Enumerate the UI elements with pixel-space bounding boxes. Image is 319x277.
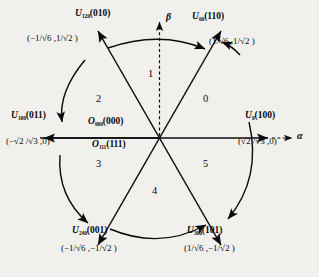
rotation-arrows bbox=[60, 39, 253, 238]
vector-subscript-u120: 120 bbox=[82, 13, 90, 19]
sector-label-2: 2 bbox=[96, 93, 101, 104]
vector-symbol-u180: U bbox=[11, 110, 18, 120]
vector-coords-u120: (−1/√6 ,1/√2 ) bbox=[27, 34, 78, 43]
vector-subscript-u300: 300 bbox=[194, 230, 202, 236]
vector-coords-u180: (−√2 /√3 ,0) bbox=[6, 137, 50, 146]
vector-coords-u240: (−1/√6 ,−1/√2 ) bbox=[61, 244, 117, 253]
vector-switching-u120: (010) bbox=[90, 8, 111, 18]
vector-switching-u60: (110) bbox=[204, 11, 224, 21]
vector-subscript-u180: 180 bbox=[18, 115, 26, 121]
vector-symbol-o000: O bbox=[88, 116, 95, 126]
sector-label-4: 4 bbox=[152, 185, 157, 196]
beta-axis-label: β bbox=[166, 12, 171, 23]
vector-label-u60: U60(110) bbox=[192, 12, 224, 22]
sector-label-0: 0 bbox=[203, 93, 208, 104]
vector-subscript-u240: 240 bbox=[79, 230, 87, 236]
vector-symbol-u240: U bbox=[72, 225, 79, 235]
alpha-axis-label: α bbox=[297, 131, 303, 142]
vector-coords-u0: (√2 /√3 ,0) bbox=[238, 137, 277, 146]
vector-symbol-u60: U bbox=[192, 11, 199, 21]
vector-symbol-o111: O bbox=[92, 139, 99, 149]
vector-switching-u240: (001) bbox=[87, 225, 108, 235]
vector-label-u300: U300(101) bbox=[187, 226, 222, 236]
sector-label-5: 5 bbox=[203, 158, 208, 169]
rotation-arrow-180-to-120 bbox=[61, 60, 85, 122]
vector-switching-o111: (111) bbox=[106, 139, 126, 149]
rotation-arrow-240-to-180 bbox=[60, 155, 88, 223]
u60-vector-line bbox=[160, 31, 222, 138]
vector-switching-u180: (011) bbox=[26, 110, 46, 120]
sector-label-1: 1 bbox=[148, 68, 153, 79]
diagram-canvas: U120(010) (−1/√6 ,1/√2 ) U60(110) (1/√6 … bbox=[0, 0, 319, 277]
vector-label-o000: O000(000) bbox=[88, 117, 123, 127]
vector-subscript-o000: 000 bbox=[95, 121, 103, 127]
vector-switching-u300: (101) bbox=[202, 225, 223, 235]
vector-label-u120: U120(010) bbox=[75, 9, 110, 19]
vector-switching-o000: (000) bbox=[103, 116, 124, 126]
vector-label-u240: U240(001) bbox=[72, 226, 107, 236]
vector-label-u180: U180(011) bbox=[11, 111, 46, 121]
vector-symbol-u120: U bbox=[75, 8, 82, 18]
vector-coords-u60: (1/√6 ,1/√2 ) bbox=[209, 37, 255, 46]
rotation-arrow-120-to-60 bbox=[108, 39, 205, 49]
vector-symbol-u300: U bbox=[187, 225, 194, 235]
vector-label-u0: U0(100) bbox=[245, 111, 275, 121]
vector-label-o111: O111(111) bbox=[92, 140, 126, 150]
sector-label-3: 3 bbox=[96, 158, 101, 169]
vector-coords-u300: (1/√6 ,−1/√2 ) bbox=[184, 244, 235, 253]
vector-switching-u0: (100) bbox=[255, 110, 276, 120]
vector-symbol-u0: U bbox=[245, 110, 252, 120]
